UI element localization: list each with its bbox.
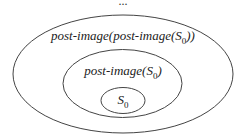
ellipsis: ... — [119, 0, 128, 9]
middle-label: post-image(S0) — [84, 63, 161, 81]
nested-sets-diagram: ... post-image(post-image(S0)) post-imag… — [0, 0, 245, 140]
inner-label: S0 — [118, 92, 129, 110]
outer-label: post-image(post-image(S0)) — [51, 28, 195, 46]
